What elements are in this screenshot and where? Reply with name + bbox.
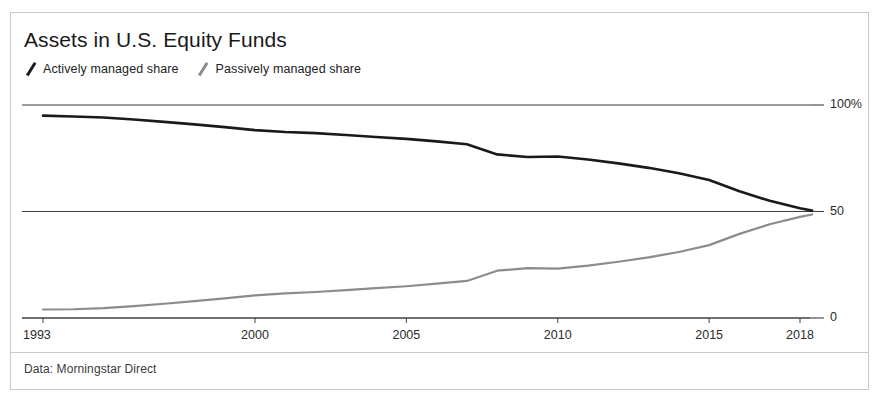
x-tick-label: 2015 xyxy=(695,328,723,342)
chart-legend: Actively managed share Passively managed… xyxy=(24,62,361,76)
x-tick-label: 1993 xyxy=(23,328,51,342)
y-tick-label: 50 xyxy=(830,204,844,218)
chart-title: Assets in U.S. Equity Funds xyxy=(24,28,287,52)
slash-marker-icon xyxy=(197,63,210,76)
legend-label-passive: Passively managed share xyxy=(216,62,361,76)
x-tick-label: 2005 xyxy=(392,328,420,342)
y-tick-label: 0 xyxy=(830,310,837,324)
legend-label-active: Actively managed share xyxy=(43,62,179,76)
x-tick-label: 2018 xyxy=(786,328,814,342)
legend-item-active[interactable]: Actively managed share xyxy=(24,62,179,76)
x-tick-label: 2010 xyxy=(544,328,572,342)
legend-item-passive[interactable]: Passively managed share xyxy=(197,62,361,76)
source-note: Data: Morningstar Direct xyxy=(24,362,156,376)
chart-figure: Assets in U.S. Equity Funds Actively man… xyxy=(0,0,881,404)
slash-marker-icon xyxy=(24,63,37,76)
x-tick-label: 2000 xyxy=(241,328,269,342)
footer-divider xyxy=(11,352,868,353)
y-tick-label: 100% xyxy=(830,97,862,111)
